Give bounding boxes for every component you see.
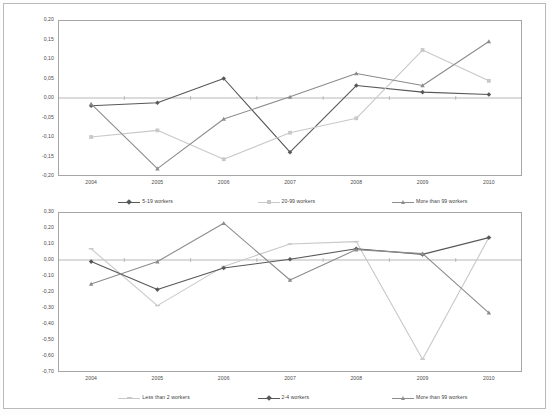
- y-tick-label: -0,30: [42, 305, 54, 310]
- marker-square: [156, 128, 160, 132]
- plot-area-bottom: [58, 212, 522, 372]
- line-chart-svg-bottom: [58, 212, 522, 372]
- legend-swatch-icon: [392, 394, 414, 402]
- marker-triangle: [487, 39, 491, 43]
- x-tick-label: 2010: [483, 180, 495, 185]
- marker-square: [421, 48, 425, 52]
- x-axis-labels-bottom: 2004200520062007200820092010: [58, 376, 522, 386]
- legend-label: 5-19 workers: [142, 199, 173, 204]
- legend-swatch-icon: [392, 198, 414, 206]
- legend-label: 20-99 workers: [282, 199, 316, 204]
- marker-diamond: [155, 100, 160, 105]
- marker-triangle: [89, 102, 93, 106]
- legend-item[interactable]: 2-4 workers: [258, 394, 310, 402]
- y-tick-label: -0,10: [42, 134, 54, 139]
- legend-swatch-icon: [118, 394, 140, 402]
- series-polyline: [91, 79, 489, 153]
- y-tick-label: -0,05: [42, 115, 54, 120]
- y-tick-label: -0,70: [42, 369, 54, 374]
- legend-label: More than 99 workers: [416, 395, 467, 400]
- legend-item[interactable]: 5-19 workers: [118, 198, 173, 206]
- x-tick-label: 2004: [85, 376, 97, 381]
- x-tick-label: 2009: [417, 180, 429, 185]
- x-tick-label: 2007: [284, 376, 296, 381]
- x-tick-label: 2008: [350, 376, 362, 381]
- y-tick-label: 0,20: [44, 17, 54, 22]
- x-tick-label: 2010: [483, 376, 495, 381]
- legend-swatch-icon: [118, 198, 140, 206]
- series-line: [89, 221, 491, 315]
- legend-item[interactable]: More than 99 workers: [392, 198, 467, 206]
- y-tick-label: -0,60: [42, 353, 54, 358]
- series-polyline: [91, 50, 489, 159]
- legend-bottom: Less than 2 workers2-4 workersMore than …: [58, 392, 522, 404]
- marker-square: [288, 131, 292, 135]
- marker-diamond: [420, 90, 425, 95]
- x-tick-label: 2006: [218, 376, 230, 381]
- x-tick-label: 2004: [85, 180, 97, 185]
- series-polyline: [91, 41, 489, 168]
- marker-square: [89, 135, 93, 139]
- series-line: [89, 48, 491, 161]
- series-line: [89, 238, 492, 360]
- series-line: [89, 76, 491, 154]
- chart-top: 0,200,150,100,050,00-0,05-0,10-0,15-0,20…: [0, 6, 551, 208]
- x-tick-label: 2008: [350, 180, 362, 185]
- x-axis-labels-top: 2004200520062007200820092010: [58, 180, 522, 190]
- y-tick-label: -0,40: [42, 321, 54, 326]
- y-tick-label: 0,00: [44, 95, 54, 100]
- legend-swatch-icon: [258, 394, 280, 402]
- legend-item[interactable]: Less than 2 workers: [118, 394, 189, 402]
- y-tick-label: -0,10: [42, 273, 54, 278]
- marker-diamond: [288, 257, 293, 262]
- y-tick-label: 0,00: [44, 257, 54, 262]
- y-axis-labels-bottom: 0,300,200,100,00-0,10-0,20-0,30-0,40-0,5…: [2, 212, 54, 372]
- legend-label: Less than 2 workers: [142, 395, 189, 400]
- marker-square: [222, 157, 226, 161]
- marker-triangle: [222, 221, 226, 225]
- legend-swatch-icon: [258, 198, 280, 206]
- y-tick-label: 0,05: [44, 76, 54, 81]
- legend-item[interactable]: More than 99 workers: [392, 394, 467, 402]
- series-polyline: [91, 238, 489, 360]
- line-chart-svg-top: [58, 20, 522, 176]
- figure-page: 0,200,150,100,050,00-0,05-0,10-0,15-0,20…: [0, 0, 551, 415]
- y-tick-label: 0,20: [44, 225, 54, 230]
- x-tick-label: 2006: [218, 180, 230, 185]
- legend-label: More than 99 workers: [416, 199, 467, 204]
- plot-area-top: [58, 20, 522, 176]
- y-tick-label: -0,50: [42, 337, 54, 342]
- marker-diamond: [487, 235, 492, 240]
- marker-square: [354, 116, 358, 120]
- x-tick-label: 2009: [417, 376, 429, 381]
- chart-bottom: 0,300,200,100,00-0,10-0,20-0,30-0,40-0,5…: [0, 206, 551, 406]
- y-tick-label: 0,10: [44, 56, 54, 61]
- y-tick-label: -0,15: [42, 154, 54, 159]
- legend-item[interactable]: 20-99 workers: [258, 198, 316, 206]
- y-tick-label: 0,10: [44, 241, 54, 246]
- marker-square: [487, 79, 491, 83]
- x-tick-label: 2007: [284, 180, 296, 185]
- y-tick-label: 0,30: [44, 209, 54, 214]
- marker-diamond: [487, 92, 492, 97]
- legend-label: 2-4 workers: [282, 395, 310, 400]
- y-tick-label: -0,20: [42, 173, 54, 178]
- y-tick-label: -0,20: [42, 289, 54, 294]
- x-tick-label: 2005: [152, 376, 164, 381]
- y-tick-label: 0,15: [44, 37, 54, 42]
- y-axis-labels-top: 0,200,150,100,050,00-0,05-0,10-0,15-0,20: [2, 20, 54, 176]
- x-tick-label: 2005: [152, 180, 164, 185]
- marker-diamond: [155, 287, 160, 292]
